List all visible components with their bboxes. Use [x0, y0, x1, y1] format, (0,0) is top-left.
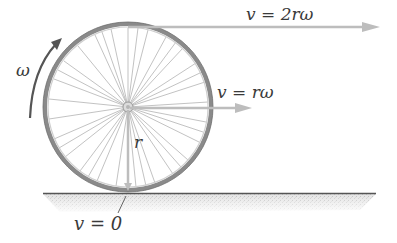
top-velocity-label: v = 2rω	[246, 6, 313, 23]
rolling-wheel-diagram: v = 2rω v = rω v = 0 r ω	[0, 0, 397, 243]
ground	[40, 194, 380, 215]
diagram-canvas	[0, 0, 397, 243]
radius-line	[124, 110, 132, 191]
center-velocity-label: v = rω	[217, 84, 274, 101]
radius-label: r	[134, 134, 142, 151]
contact-velocity-label: v = 0	[74, 215, 122, 233]
center-velocity-arrow	[130, 103, 252, 113]
omega-label: ω	[16, 62, 30, 79]
